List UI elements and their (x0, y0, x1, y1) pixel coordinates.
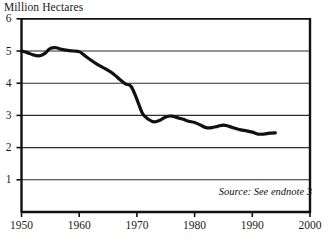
x-tick-label: 1970 (117, 219, 157, 231)
y-tick-label: 5 (0, 45, 12, 57)
x-tick-label: 1980 (175, 219, 215, 231)
y-tick-label: 1 (0, 173, 12, 185)
y-tick-label: 3 (0, 109, 12, 121)
y-tick-label: 2 (0, 141, 12, 153)
x-tick-label: 1960 (59, 219, 99, 231)
x-tick-label: 2000 (290, 219, 329, 231)
chart-figure: Million Hectares 123456 1950196019701980… (0, 0, 329, 244)
y-tick-label: 4 (0, 77, 12, 89)
line-chart-plot (0, 0, 329, 244)
y-tick-label: 6 (0, 12, 12, 24)
x-tick-label: 1990 (232, 219, 272, 231)
x-tick-label: 1950 (2, 219, 42, 231)
source-note: Source: See endnote 3 (219, 186, 312, 198)
